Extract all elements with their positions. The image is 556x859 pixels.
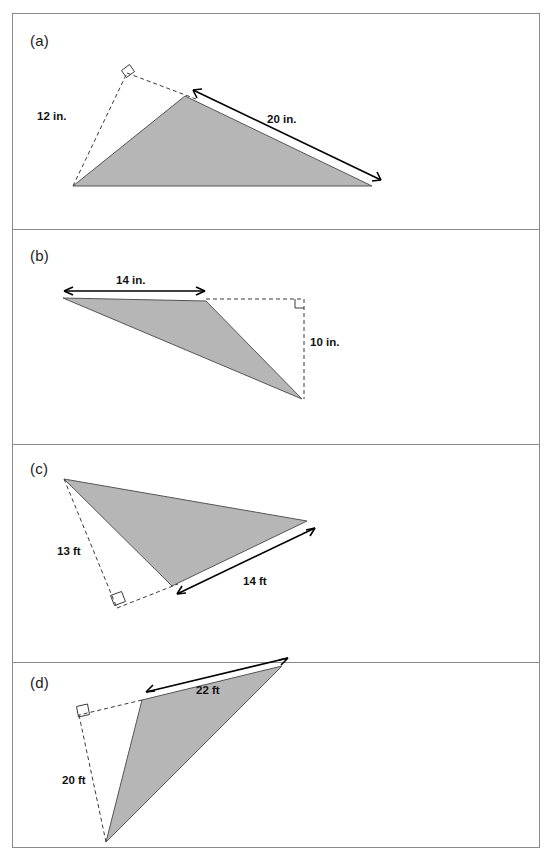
worksheet-page: Area of the triangle = (a) 12 in. 20 in.… — [0, 0, 556, 859]
dimension-label-d-base: 22 ft — [196, 684, 220, 696]
dimension-arrow-end-22ft — [279, 658, 288, 665]
dimension-arrow-start-22ft — [146, 685, 155, 692]
triangle-shape-d — [106, 666, 282, 842]
dimension-label-d-height: 20 ft — [62, 774, 86, 786]
figure-d — [0, 0, 556, 859]
right-angle-marker-d — [77, 704, 90, 717]
